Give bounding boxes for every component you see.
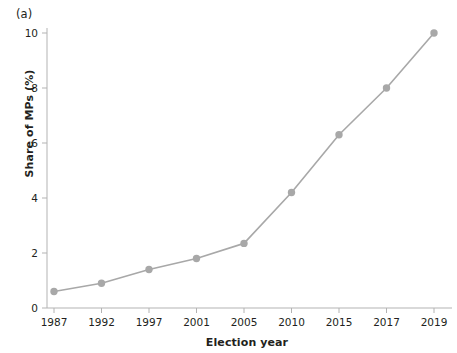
x-tick-label-1992: 1992 bbox=[88, 316, 115, 328]
x-tick-label-2019: 2019 bbox=[421, 316, 448, 328]
data-point-2001 bbox=[193, 255, 200, 262]
data-point-2010 bbox=[288, 189, 295, 196]
line-chart: 0246810 19871992199720012005201020152017… bbox=[0, 0, 457, 353]
y-tick-label-0: 0 bbox=[31, 302, 38, 314]
x-tick-label-2010: 2010 bbox=[278, 316, 305, 328]
data-point-2015 bbox=[335, 131, 342, 138]
x-axis: 198719921997200120052010201520172019 bbox=[41, 308, 452, 328]
data-point-2005 bbox=[240, 240, 247, 247]
y-tick-label-8: 8 bbox=[31, 82, 38, 94]
x-tick-label-2005: 2005 bbox=[231, 316, 258, 328]
y-tick-label-10: 10 bbox=[25, 27, 38, 39]
series-line bbox=[54, 33, 434, 292]
x-tick-label-2001: 2001 bbox=[183, 316, 210, 328]
y-tick-label-6: 6 bbox=[31, 137, 38, 149]
x-tick-label-2015: 2015 bbox=[326, 316, 353, 328]
data-point-1987 bbox=[50, 288, 57, 295]
figure-panel-a: (a) Share of MPs (%) Election year 02468… bbox=[0, 0, 457, 353]
x-tick-label-1997: 1997 bbox=[136, 316, 163, 328]
x-tick-label-1987: 1987 bbox=[41, 316, 68, 328]
y-tick-label-4: 4 bbox=[31, 192, 38, 204]
data-point-2017 bbox=[383, 84, 390, 91]
y-tick-label-2: 2 bbox=[31, 247, 38, 259]
data-point-2019 bbox=[430, 29, 437, 36]
data-point-1997 bbox=[145, 266, 152, 273]
data-series bbox=[50, 29, 437, 295]
x-tick-label-2017: 2017 bbox=[373, 316, 400, 328]
y-axis: 0246810 bbox=[25, 27, 47, 314]
data-point-1992 bbox=[98, 280, 105, 287]
